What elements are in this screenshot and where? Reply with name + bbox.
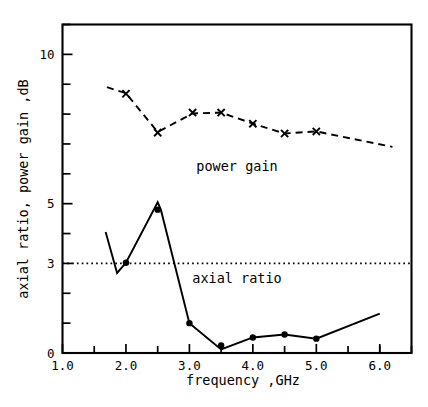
- y-tick-label: 10: [39, 47, 54, 62]
- y-axis-title: axial ratio, power gain ,dB: [15, 79, 31, 298]
- data-point: [218, 342, 224, 348]
- x-tick-label: 1.0: [51, 358, 74, 373]
- x-axis-tick-labels: 1.02.03.04.05.06.0: [51, 358, 391, 373]
- x-tick-label: 4.0: [242, 358, 265, 373]
- data-point: [313, 335, 319, 341]
- data-point: [154, 206, 160, 212]
- x-tick-label: 5.0: [305, 358, 328, 373]
- annotation-power-gain: power gain: [196, 158, 277, 174]
- x-axis-title: frequency ,GHz: [186, 372, 300, 388]
- x-tick-label: 2.0: [115, 358, 138, 373]
- data-point: [123, 260, 129, 266]
- x-tick-label: 6.0: [368, 358, 391, 373]
- annotation-axial-ratio: axial ratio: [192, 270, 281, 286]
- x-axis-ticks: [63, 344, 412, 353]
- plot-frame: [63, 25, 412, 354]
- y-tick-label: 3: [47, 256, 55, 271]
- data-point: [250, 334, 256, 340]
- y-axis-tick-labels: 03510: [39, 47, 54, 361]
- series-power-gain: [107, 87, 393, 147]
- x-tick-label: 3.0: [178, 358, 201, 373]
- series-line-power-gain: [107, 87, 393, 147]
- chart-canvas: 03510 1.02.03.04.05.06.0 power gain axia…: [0, 0, 428, 407]
- chart-figure: 03510 1.02.03.04.05.06.0 power gain axia…: [0, 0, 428, 407]
- data-point: [281, 331, 287, 337]
- y-axis-ticks: [63, 25, 73, 354]
- data-point: [186, 320, 192, 326]
- y-tick-label: 5: [47, 196, 55, 211]
